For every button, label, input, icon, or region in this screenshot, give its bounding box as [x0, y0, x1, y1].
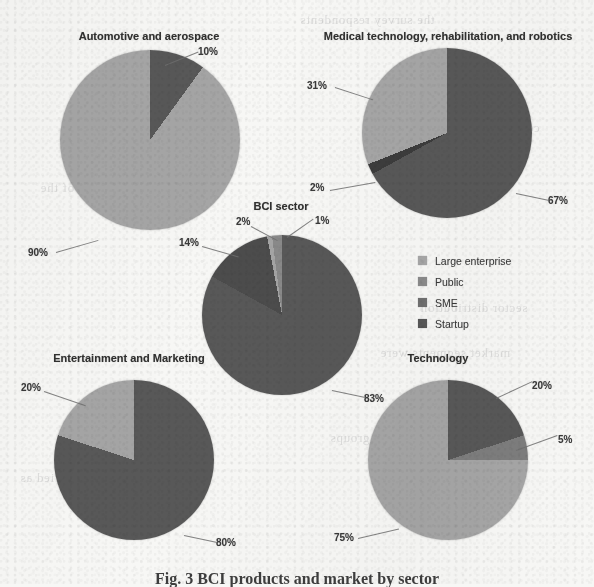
legend-item-label: Startup: [435, 318, 469, 330]
legend-item-large-enterprise[interactable]: Large enterprise: [418, 252, 511, 269]
leader-line: [335, 87, 373, 100]
slice-label-20: 20%: [532, 380, 552, 391]
leader-line: [330, 182, 375, 191]
leader-line: [516, 193, 549, 201]
legend-item-sme[interactable]: SME: [418, 294, 511, 311]
slice-label-1: 1%: [315, 215, 329, 226]
chart-title: Automotive and aerospace: [79, 30, 220, 42]
legend-item-public[interactable]: Public: [418, 273, 511, 290]
slice-label-80: 80%: [216, 537, 236, 548]
pie-medical: [362, 48, 532, 218]
legend-swatch-icon: [418, 298, 427, 307]
bleed-text: the survey respondents: [300, 12, 435, 28]
leader-line: [44, 391, 86, 406]
legend-swatch-icon: [418, 256, 427, 265]
chart-title: Entertainment and Marketing: [53, 352, 205, 364]
slice-label-10: 10%: [198, 46, 218, 57]
chart-title: Medical technology, rehabilitation, and …: [324, 30, 573, 42]
chart-title: BCI sector: [253, 200, 308, 212]
slice-label-75: 75%: [334, 532, 354, 543]
slice-label-5: 5%: [558, 434, 572, 445]
legend-item-label: Public: [435, 276, 464, 288]
leader-line: [358, 529, 399, 539]
legend-swatch-icon: [418, 319, 427, 328]
chart-technology: Technology 20% 5% 75%: [330, 352, 580, 567]
legend-item-label: SME: [435, 297, 458, 309]
slice-label-2: 2%: [310, 182, 324, 193]
leader-line: [56, 240, 99, 253]
legend-item-label: Large enterprise: [435, 255, 511, 267]
slice-label-20: 20%: [21, 382, 41, 393]
leader-line: [184, 535, 217, 543]
pie-technology: [368, 380, 528, 540]
chart-title: Technology: [408, 352, 469, 364]
legend: Large enterprisePublicSMEStartup: [418, 252, 511, 336]
slice-label-31: 31%: [307, 80, 327, 91]
slice-label-2: 2%: [236, 216, 250, 227]
leader-line: [496, 381, 533, 399]
chart-entertainment-and-marketing: Entertainment and Marketing 20% 80%: [14, 352, 264, 567]
legend-swatch-icon: [418, 277, 427, 286]
slice-label-67: 67%: [548, 195, 568, 206]
leader-line: [287, 219, 314, 238]
figure-caption: Fig. 3 BCI products and market by sector: [0, 569, 594, 587]
slice-label-90: 90%: [28, 247, 48, 258]
legend-item-startup[interactable]: Startup: [418, 315, 511, 332]
slice-label-14: 14%: [179, 237, 199, 248]
